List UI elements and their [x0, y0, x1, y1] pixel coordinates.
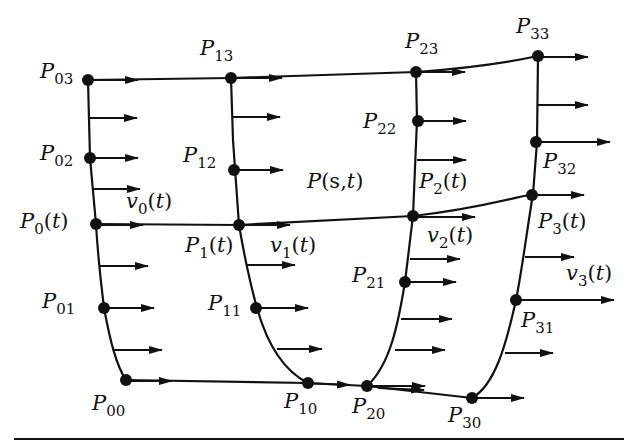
tangent-arrows [88, 57, 614, 398]
label-p03: P03 [39, 59, 73, 88]
label-v3t: v3(t) [566, 261, 612, 290]
label-p30: P30 [447, 403, 481, 432]
point-p23 [410, 66, 422, 78]
label-p0t: P0(t) [19, 209, 69, 238]
label-p10: P10 [283, 389, 317, 418]
curve-column-0 [88, 80, 126, 380]
point-p0t [90, 218, 102, 230]
point-p10 [302, 377, 314, 389]
label-p3t: P3(t) [537, 209, 587, 238]
label-p02: P02 [39, 141, 73, 170]
label-p23: P23 [404, 29, 438, 58]
point-p22 [412, 115, 424, 127]
label-p00: P00 [91, 391, 125, 420]
point-p20 [361, 380, 373, 392]
point-p32 [530, 136, 542, 148]
label-p33: P33 [515, 14, 549, 43]
point-p03 [82, 74, 94, 86]
point-p31 [510, 294, 522, 306]
curve-column-3 [472, 56, 538, 398]
label-p20: P20 [351, 394, 385, 423]
point-p3t [526, 189, 538, 201]
label-p12: P12 [182, 143, 216, 172]
curve-column-1 [231, 78, 308, 383]
label-p1t: P1(t) [184, 233, 234, 262]
point-p30 [466, 392, 478, 404]
point-p00 [120, 374, 132, 386]
label-surface: P(s,t) [306, 169, 363, 193]
point-p12 [228, 164, 240, 176]
label-p01: P01 [41, 289, 75, 318]
patch-diagram: P03 P02 P01 P00 P13 P12 P11 P10 P23 P22 … [0, 0, 630, 446]
label-p31: P31 [520, 308, 554, 337]
point-p33 [532, 50, 544, 62]
label-p32: P32 [542, 149, 576, 178]
point-p1t [233, 219, 245, 231]
label-v1t: v1(t) [270, 233, 316, 262]
point-p01 [98, 302, 110, 314]
label-p13: P13 [199, 36, 233, 65]
label-p21: P21 [351, 263, 385, 292]
label-v0t: v0(t) [126, 189, 172, 218]
point-p02 [84, 152, 96, 164]
label-p11: P11 [207, 291, 241, 320]
point-p11 [250, 302, 262, 314]
label-p22: P22 [362, 109, 396, 138]
label-p2t: P2(t) [418, 169, 468, 198]
point-p13 [225, 72, 237, 84]
arrow [378, 388, 424, 390]
label-v2t: v2(t) [427, 223, 473, 252]
curve-row-top [88, 56, 538, 80]
point-p2t [407, 210, 419, 222]
point-p21 [399, 276, 411, 288]
